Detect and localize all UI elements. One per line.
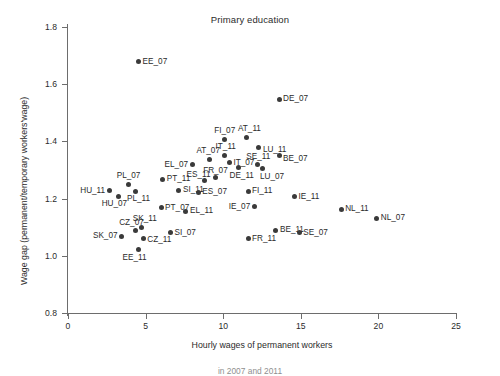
data-point	[227, 160, 232, 165]
x-tick-mark	[378, 314, 379, 319]
data-point	[202, 178, 207, 183]
data-point	[255, 162, 260, 167]
chart-title: Primary education	[0, 14, 500, 25]
data-point-label: DE_07	[283, 95, 308, 103]
x-tick-label: 20	[363, 321, 393, 331]
y-tick-label: 0.8	[31, 308, 57, 318]
data-point	[107, 188, 112, 193]
data-point-label: SE_07	[303, 229, 328, 237]
data-point-label: SK_07	[93, 232, 118, 240]
y-tick-mark	[62, 141, 67, 142]
x-axis-line	[67, 313, 457, 314]
data-point-label: PL_07	[117, 172, 141, 180]
x-tick-mark	[223, 314, 224, 319]
data-point	[190, 162, 195, 167]
data-point	[236, 165, 241, 170]
y-tick-label: 1.6	[31, 79, 57, 89]
figure-caption: in 2007 and 2011	[0, 366, 500, 376]
data-point-label: IE_11	[299, 193, 320, 201]
x-tick-mark	[68, 314, 69, 319]
x-tick-label: 25	[441, 321, 471, 331]
x-tick-label: 5	[131, 321, 161, 331]
data-point-label: AT_07	[196, 147, 220, 155]
x-tick-label: 0	[53, 321, 83, 331]
y-tick-label: 1.0	[31, 251, 57, 261]
x-axis-title: Hourly wages of permanent workers	[68, 340, 456, 350]
data-point-label: DE_11	[230, 172, 254, 180]
data-point-label: FI_11	[252, 187, 272, 195]
data-point	[136, 247, 141, 252]
data-point-label: EE_07	[143, 57, 168, 65]
data-point	[196, 190, 201, 195]
data-point	[244, 135, 249, 140]
data-point	[136, 59, 141, 64]
data-point-label: PL_11	[127, 195, 150, 203]
data-point	[207, 157, 212, 162]
y-tick-mark	[62, 84, 67, 85]
data-point-label: HU_11	[80, 186, 105, 194]
y-tick-mark	[62, 27, 67, 28]
y-tick-label: 1.8	[31, 22, 57, 32]
data-point-label: CZ_11	[147, 236, 171, 244]
data-point	[133, 189, 138, 194]
scatter-chart-figure: Primary education 0.81.01.21.41.61.8 051…	[0, 0, 500, 376]
data-point-label: PT_11	[167, 175, 191, 183]
x-tick-label: 10	[208, 321, 238, 331]
y-tick-mark	[62, 256, 67, 257]
data-point-label: EL_11	[190, 207, 213, 215]
data-point	[141, 236, 146, 241]
y-tick-mark	[62, 313, 67, 314]
data-point	[116, 194, 121, 199]
y-axis-title: Wage gap (permanent/temporary workers'wa…	[19, 97, 29, 285]
data-point	[246, 236, 251, 241]
data-point	[374, 216, 379, 221]
data-point	[159, 205, 164, 210]
data-point	[246, 189, 251, 194]
data-point-label: FR_11	[252, 235, 276, 243]
data-point-label: IE_07	[229, 202, 250, 210]
data-point-label: AT_11	[238, 125, 261, 133]
x-tick-mark	[301, 314, 302, 319]
data-point	[126, 182, 131, 187]
data-point-label: NL_11	[345, 205, 369, 213]
data-point	[119, 234, 124, 239]
y-tick-mark	[62, 199, 67, 200]
data-point-label: BE_07	[283, 155, 308, 163]
data-point-label: CZ_07	[119, 218, 144, 226]
data-point-label: EE_11	[123, 254, 147, 262]
data-point	[252, 204, 257, 209]
data-point-label: LU_07	[260, 173, 284, 181]
y-tick-label: 1.2	[31, 194, 57, 204]
plot-area: EE_07DE_07FI_07AT_11LU_11IT_11AT_07IT_07…	[68, 27, 456, 313]
data-point-label: FI_07	[214, 127, 235, 135]
data-point	[160, 177, 165, 182]
data-point-label: SE_11	[246, 153, 270, 161]
data-point	[292, 194, 297, 199]
data-point	[256, 145, 261, 150]
data-point	[133, 228, 138, 233]
x-tick-label: 15	[286, 321, 316, 331]
x-tick-mark	[456, 314, 457, 319]
data-point	[168, 230, 173, 235]
data-point	[176, 188, 181, 193]
data-point	[297, 230, 302, 235]
data-point	[339, 207, 344, 212]
data-point	[273, 228, 278, 233]
data-point-label: SI_07	[174, 229, 195, 237]
data-point	[277, 153, 282, 158]
data-point-label: HU_07	[102, 200, 128, 208]
data-point	[213, 175, 218, 180]
data-point	[260, 166, 265, 171]
data-point	[222, 153, 227, 158]
y-tick-label: 1.4	[31, 136, 57, 146]
data-point-label: ES_07	[202, 188, 227, 196]
data-point-label: NL_07	[381, 214, 405, 222]
data-point	[277, 97, 282, 102]
x-tick-mark	[146, 314, 147, 319]
data-point-label: EL_07	[164, 160, 188, 168]
data-point	[183, 209, 188, 214]
